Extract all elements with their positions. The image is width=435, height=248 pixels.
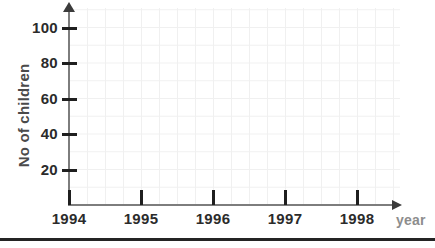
y-tick-label-20: 20 bbox=[41, 162, 58, 177]
x-tick-label-1996: 1996 bbox=[178, 211, 248, 226]
x-tick-mark-1997 bbox=[284, 190, 287, 205]
y-tick-label-60: 60 bbox=[41, 91, 58, 106]
y-tick-mark-80 bbox=[62, 62, 77, 65]
y-tick-label-40: 40 bbox=[41, 126, 58, 141]
y-tick-mark-40 bbox=[62, 133, 77, 136]
plot-area-grid bbox=[69, 8, 400, 205]
y-tick-label-80: 80 bbox=[41, 55, 58, 70]
x-axis-line bbox=[69, 204, 394, 206]
y-tick-mark-20 bbox=[62, 169, 77, 172]
y-tick-label-100: 100 bbox=[32, 20, 58, 35]
y-axis-title: No of children bbox=[15, 56, 32, 176]
x-axis-title: year bbox=[396, 212, 426, 228]
x-tick-label-1997: 1997 bbox=[250, 211, 320, 226]
x-tick-mark-1994 bbox=[68, 190, 71, 205]
chart-figure: 100 80 60 40 20 1994 1995 1996 1997 1998… bbox=[0, 0, 435, 248]
x-tick-mark-1998 bbox=[356, 190, 359, 205]
x-axis-arrow-icon bbox=[392, 200, 402, 210]
x-tick-label-1998: 1998 bbox=[322, 211, 392, 226]
y-tick-mark-100 bbox=[62, 27, 77, 30]
y-axis-line bbox=[68, 10, 70, 206]
x-tick-label-1994: 1994 bbox=[34, 211, 104, 226]
x-tick-label-1995: 1995 bbox=[106, 211, 176, 226]
x-tick-mark-1996 bbox=[212, 190, 215, 205]
y-axis-arrow-icon bbox=[63, 2, 75, 12]
y-tick-mark-60 bbox=[62, 98, 77, 101]
x-tick-mark-1995 bbox=[140, 190, 143, 205]
bottom-divider-rule bbox=[0, 238, 435, 241]
